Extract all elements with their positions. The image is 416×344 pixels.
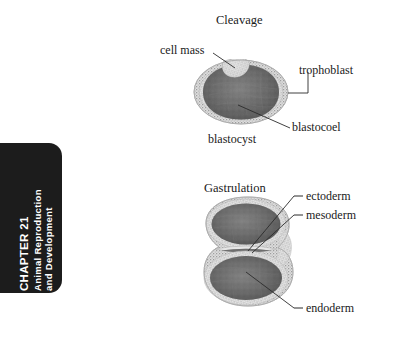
chapter-title-line-2: and Development [43, 207, 54, 291]
label-mesoderm: mesoderm [306, 208, 356, 223]
lower-chamber-texture [210, 256, 282, 300]
label-endoderm: endoderm [306, 301, 354, 316]
label-cell-mass: cell mass [160, 43, 204, 58]
upper-chamber-texture [212, 204, 281, 245]
blastocyst-svg [193, 59, 289, 125]
label-trophoblast: trophoblast [299, 63, 353, 78]
gastrula-upper-chamber [206, 199, 286, 249]
gastrula-svg [198, 196, 298, 318]
chapter-number-label: CHAPTER 21 [18, 216, 30, 291]
cleavage-figure-title: Cleavage [216, 13, 263, 28]
chapter-tab: CHAPTER 21 Animal Reproduction and Devel… [0, 143, 62, 293]
chapter-tab-text-block: CHAPTER 21 Animal Reproduction and Devel… [0, 143, 72, 293]
figure-page: CHAPTER 21 Animal Reproduction and Devel… [0, 0, 416, 344]
label-blastocyst: blastocyst [208, 132, 256, 147]
gastrulation-figure-title: Gastrulation [204, 181, 266, 196]
label-blastocoel: blastocoel [292, 120, 341, 135]
label-ectoderm: ectoderm [306, 189, 351, 204]
gastrula-illustration [198, 196, 298, 318]
blastocyst-illustration [193, 59, 289, 125]
chapter-title-line-1: Animal Reproduction [32, 189, 43, 291]
